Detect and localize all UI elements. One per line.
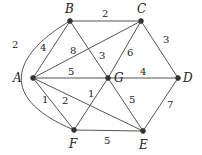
edge-weight-D-E: 7: [167, 99, 173, 110]
edge-weight-A-F: 1: [42, 94, 48, 105]
node-F: [72, 128, 77, 133]
edge-weight-B-G: 3: [99, 50, 105, 61]
node-labels-layer: ABCDGFE: [12, 2, 193, 152]
node-D: [176, 76, 181, 81]
node-B: [68, 19, 73, 24]
edge-weight-G-D: 4: [140, 66, 146, 77]
node-G: [106, 76, 111, 81]
nodes-layer: [31, 19, 181, 134]
node-label-B: B: [64, 2, 74, 16]
edge-weight-G-F: 1: [88, 88, 94, 99]
edge-B-F: [21, 21, 74, 130]
edge-weight-A-B: 4: [40, 42, 46, 53]
edge-weight-B-C: 2: [102, 8, 108, 19]
node-E: [141, 129, 146, 134]
edge-weight-C-G: 6: [127, 47, 133, 58]
edge-weight-F-E: 5: [104, 135, 110, 146]
edge-A-B: [33, 21, 70, 78]
edge-F-E: [74, 130, 143, 131]
edge-C-D: [141, 21, 178, 78]
node-C: [139, 19, 144, 24]
edge-weight-A-G: 5: [68, 66, 74, 77]
node-label-G: G: [114, 71, 124, 85]
edge-weight-C-D: 3: [163, 34, 169, 45]
node-label-F: F: [68, 137, 78, 151]
edge-weight-A-E: 2: [62, 95, 68, 106]
edge-weight-G-E: 5: [129, 94, 135, 105]
edges-layer: [21, 21, 178, 131]
node-label-E: E: [138, 138, 148, 152]
node-label-A: A: [12, 71, 22, 85]
edge-weight-B-F: 2: [12, 39, 18, 50]
node-label-C: C: [137, 2, 146, 16]
edge-G-F: [74, 78, 108, 130]
edge-weights-layer: 242836354121575: [12, 8, 173, 146]
edge-A-E: [33, 78, 143, 131]
node-A: [31, 76, 36, 81]
weighted-graph-diagram: 242836354121575 ABCDGFE: [0, 0, 202, 155]
node-label-D: D: [182, 71, 193, 85]
edge-weight-A-C: 8: [70, 45, 76, 56]
